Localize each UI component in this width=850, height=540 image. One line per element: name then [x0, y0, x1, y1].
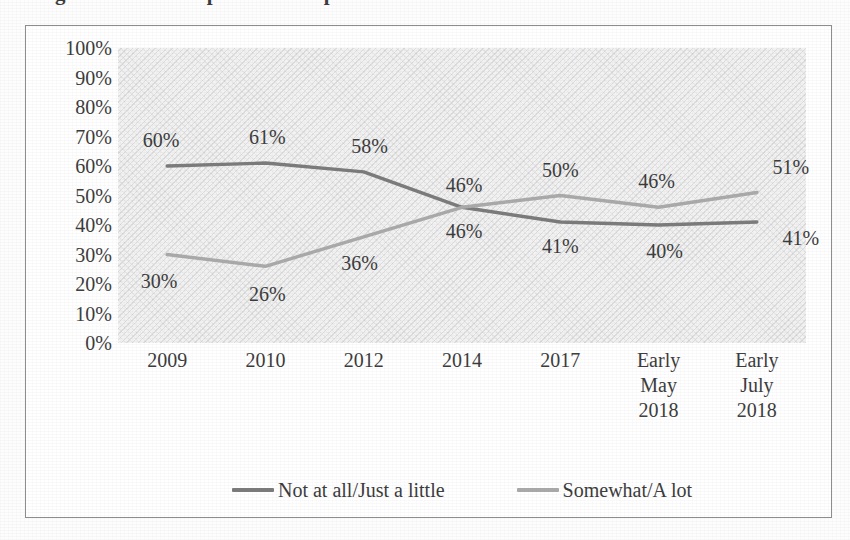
- x-axis-tick: 2009: [112, 348, 222, 373]
- data-label: 60%: [143, 129, 180, 152]
- y-axis-tick: 30%: [75, 243, 112, 266]
- y-axis-tick: 10%: [75, 302, 112, 325]
- data-label: 26%: [249, 283, 286, 306]
- x-axis: 20092010201220142017Early May 2018Early …: [118, 348, 806, 458]
- x-axis-tick: 2017: [505, 348, 615, 373]
- legend-item-series-1[interactable]: Not at all/Just a little: [232, 479, 445, 502]
- data-label: 30%: [141, 269, 178, 292]
- chart-frame: 100%90%80%70%60%50%40%30%20%10%0% 60%61%…: [25, 25, 832, 518]
- data-label: 36%: [341, 251, 378, 274]
- x-axis-tick: Early May 2018: [604, 348, 714, 423]
- y-axis-tick: 70%: [75, 125, 112, 148]
- legend-swatch-light: [517, 488, 559, 491]
- data-label: 46%: [638, 170, 675, 193]
- chart-legend: Not at all/Just a little Somewhat/A lot: [118, 474, 806, 506]
- y-axis-tick: 80%: [75, 96, 112, 119]
- y-axis-tick: 20%: [75, 273, 112, 296]
- data-label: 41%: [783, 227, 820, 250]
- data-label: 46%: [446, 220, 483, 243]
- x-axis-tick: Early July 2018: [702, 348, 812, 423]
- legend-label-series-2: Somewhat/A lot: [563, 479, 692, 502]
- legend-label-series-1: Not at all/Just a little: [278, 479, 445, 502]
- legend-item-series-2[interactable]: Somewhat/A lot: [517, 479, 692, 502]
- data-label: 61%: [249, 126, 286, 149]
- x-axis-tick: 2014: [407, 348, 517, 373]
- y-axis-tick: 100%: [65, 37, 112, 60]
- data-label: 58%: [351, 134, 388, 157]
- data-label: 46%: [446, 174, 483, 197]
- data-label: 51%: [773, 155, 810, 178]
- data-label: 50%: [542, 158, 579, 181]
- legend-swatch-dark: [232, 488, 274, 491]
- y-axis-tick: 40%: [75, 214, 112, 237]
- x-axis-tick: 2010: [210, 348, 320, 373]
- y-axis-tick: 50%: [75, 184, 112, 207]
- data-label: 40%: [646, 240, 683, 263]
- y-axis-tick: 60%: [75, 155, 112, 178]
- y-axis-tick: 0%: [85, 332, 112, 355]
- y-axis: 100%90%80%70%60%50%40%30%20%10%0%: [26, 48, 112, 343]
- y-axis-tick: 90%: [75, 66, 112, 89]
- x-axis-tick: 2012: [309, 348, 419, 373]
- data-label: 41%: [542, 235, 579, 258]
- figure-title-text: Figure 1. Trend in perceived impact over…: [36, 0, 454, 6]
- plot-area: 60%61%58%46%41%40%41%30%26%36%46%50%46%5…: [118, 48, 806, 343]
- figure-title-cropped: Figure 1. Trend in perceived impact over…: [0, 0, 850, 13]
